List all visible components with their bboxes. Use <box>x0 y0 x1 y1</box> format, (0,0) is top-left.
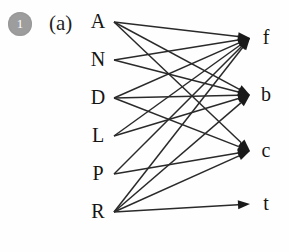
left-node-P: P <box>92 162 103 184</box>
right-node-b: b <box>261 83 271 105</box>
left-node-A: A <box>91 10 106 32</box>
graph-edge <box>114 22 239 89</box>
bipartite-graph-svg: ANDLPR fbct <box>0 0 289 252</box>
graph-edge <box>114 22 238 37</box>
right-node-f: f <box>263 26 270 48</box>
left-node-labels-group: ANDLPR <box>91 10 106 222</box>
left-node-R: R <box>91 200 105 222</box>
graph-edge <box>114 95 238 98</box>
graph-edge <box>114 40 238 60</box>
right-node-labels-group: fbct <box>261 26 271 214</box>
left-node-N: N <box>91 48 105 70</box>
graph-edge <box>114 98 239 136</box>
figure-container: 1 (a) ANDLPR fbct <box>0 0 289 252</box>
graph-edge <box>114 43 239 98</box>
graph-edge <box>114 156 239 212</box>
edge-arrowhead <box>238 200 250 209</box>
right-node-t: t <box>263 192 269 214</box>
edges-group <box>114 22 250 212</box>
right-node-c: c <box>262 139 271 161</box>
graph-edge <box>114 103 241 212</box>
graph-edge <box>114 22 241 143</box>
left-node-D: D <box>91 86 105 108</box>
edge-arrowhead <box>237 151 250 160</box>
graph-edge <box>114 205 238 212</box>
left-node-L: L <box>92 124 104 146</box>
